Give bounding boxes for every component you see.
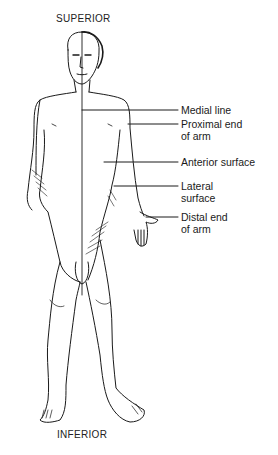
callout-proximal-end-of-arm: Proximal end of arm [181, 118, 242, 142]
callout-distal-end-of-arm: Distal end of arm [181, 211, 228, 235]
human-figure-diagram [0, 0, 278, 455]
callout-lateral-surface: Lateral surface [181, 180, 215, 204]
callout-anterior-surface: Anterior surface [181, 156, 255, 168]
torso-illustration [27, 92, 158, 284]
callout-medial-line: Medial line [181, 104, 231, 116]
head-illustration [68, 32, 103, 92]
